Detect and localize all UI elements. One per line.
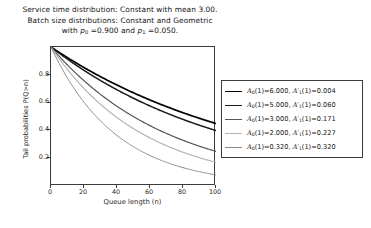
legend-value-a1: (1)=0.227 xyxy=(302,129,336,137)
legend-value-a0: (1)=6.000, xyxy=(255,87,293,95)
title-line-1: Service time distribution: Constant with… xyxy=(0,5,240,16)
legend-value-a1: (1)=0.320 xyxy=(302,143,336,151)
legend-line-swatch xyxy=(225,105,242,106)
plot-area xyxy=(50,46,215,185)
figure-canvas: Service time distribution: Constant with… xyxy=(0,0,371,228)
legend-line-swatch xyxy=(225,133,242,134)
legend-item[interactable]: A0(1)=3.000, A′1(1)=0.171 xyxy=(225,112,358,126)
legend-line-swatch xyxy=(225,91,242,92)
p0-value: =0.900 and xyxy=(88,26,137,35)
legend-value-a0: (1)=5.000, xyxy=(255,101,293,109)
series-line xyxy=(51,47,216,131)
legend-value-a1: (1)=0.060 xyxy=(302,101,336,109)
chart-title: Service time distribution: Constant with… xyxy=(0,5,240,38)
legend-item[interactable]: A0(1)=6.000, A′1(1)=0.004 xyxy=(225,84,358,98)
x-tick-label: 80 xyxy=(167,188,197,196)
x-tick-label: 100 xyxy=(200,188,230,196)
legend-item-label: A0(1)=2.000, A′1(1)=0.227 xyxy=(247,129,336,137)
title-line-3-prefix: with xyxy=(62,26,80,35)
legend-line-swatch xyxy=(225,147,242,148)
legend-item-label: A0(1)=3.000, A′1(1)=0.171 xyxy=(247,115,336,123)
legend-item[interactable]: A0(1)=5.000, A′1(1)=0.060 xyxy=(225,98,358,112)
legend-item-label: A0(1)=6.000, A′1(1)=0.004 xyxy=(247,87,336,95)
title-line-2: Batch size distributions: Constant and G… xyxy=(0,16,240,27)
series-line xyxy=(51,47,216,124)
legend-value-a1: (1)=0.171 xyxy=(302,115,336,123)
legend-item-label: A0(1)=5.000, A′1(1)=0.060 xyxy=(247,101,336,109)
legend-line-swatch xyxy=(225,119,242,120)
x-tick-label: 20 xyxy=(68,188,98,196)
legend-box: A0(1)=6.000, A′1(1)=0.004A0(1)=5.000, A′… xyxy=(221,80,363,158)
legend-value-a0: (1)=2.000, xyxy=(255,129,293,137)
x-tick-label: 40 xyxy=(101,188,131,196)
x-axis-label: Queue length (n) xyxy=(50,198,215,206)
legend-item[interactable]: A0(1)=0.320, A′1(1)=0.320 xyxy=(225,140,358,154)
curves-svg xyxy=(51,47,216,186)
x-tick-label: 0 xyxy=(35,188,65,196)
legend-value-a0: (1)=3.000, xyxy=(255,115,293,123)
p1-value: =0.050. xyxy=(146,26,179,35)
title-line-3: with p0 =0.900 and p1 =0.050. xyxy=(0,26,240,38)
y-axis-label: Tail probabilities P(Q>n) xyxy=(22,49,30,189)
legend-item[interactable]: A0(1)=2.000, A′1(1)=0.227 xyxy=(225,126,358,140)
x-tick-label: 60 xyxy=(134,188,164,196)
legend-item-label: A0(1)=0.320, A′1(1)=0.320 xyxy=(247,143,336,151)
legend-value-a1: (1)=0.004 xyxy=(302,87,336,95)
legend-value-a0: (1)=0.320, xyxy=(255,143,293,151)
